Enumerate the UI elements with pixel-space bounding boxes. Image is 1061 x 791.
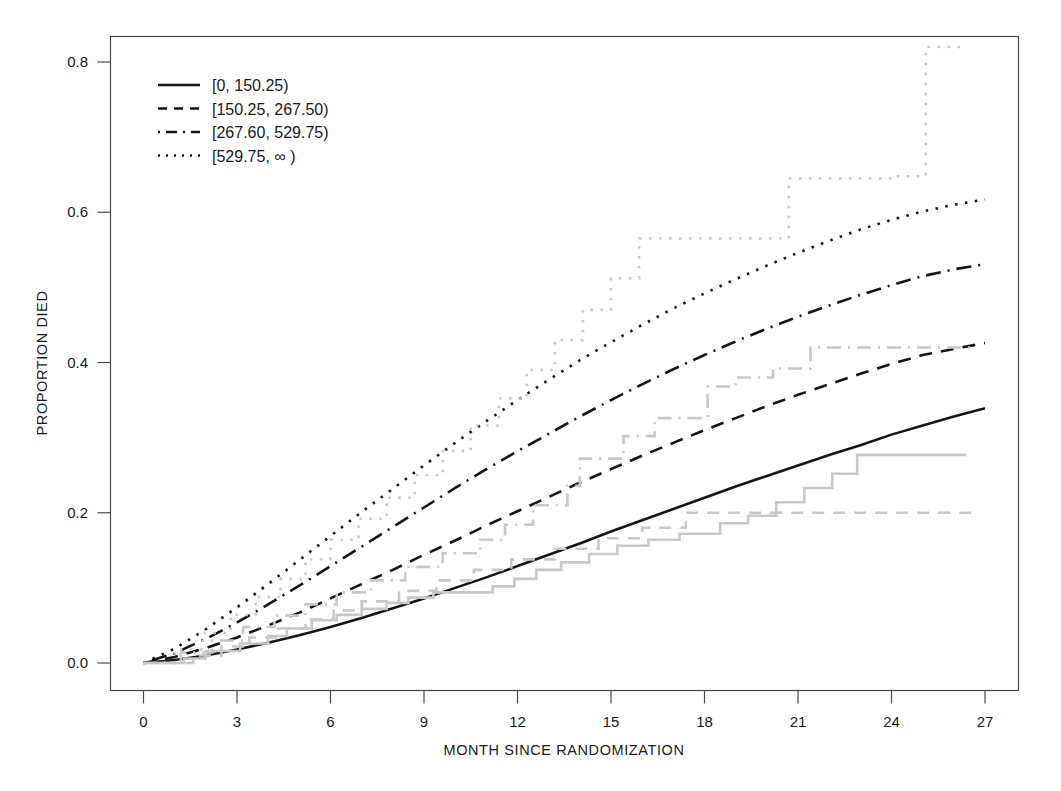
- x-tick-label-8: 24: [883, 713, 900, 730]
- x-tick-label-0: 0: [139, 713, 147, 730]
- y-tick-label-0: 0.0: [67, 654, 88, 671]
- x-tick-label-3: 9: [420, 713, 428, 730]
- legend-label-2: [267.60, 529.75): [212, 124, 329, 141]
- chart-background: [0, 0, 1061, 791]
- y-tick-label-4: 0.8: [67, 53, 88, 70]
- legend-label-1: [150.25, 267.50): [212, 101, 329, 118]
- x-tick-label-7: 21: [790, 713, 807, 730]
- x-axis-title: MONTH SINCE RANDOMIZATION: [443, 742, 684, 758]
- x-tick-label-6: 18: [696, 713, 713, 730]
- figure-container: 03691215182124270.00.20.40.60.8 MONTH SI…: [0, 0, 1061, 791]
- legend-label-0: [0, 150.25): [212, 77, 289, 94]
- x-tick-label-2: 6: [326, 713, 334, 730]
- x-tick-label-5: 15: [603, 713, 620, 730]
- x-tick-label-9: 27: [977, 713, 994, 730]
- legend-label-3: [529.75, ∞ ): [212, 148, 295, 165]
- y-tick-label-3: 0.6: [67, 203, 88, 220]
- x-tick-label-4: 12: [509, 713, 526, 730]
- x-tick-label-1: 3: [233, 713, 241, 730]
- y-tick-label-1: 0.2: [67, 504, 88, 521]
- y-axis-title: PROPORTION DIED: [34, 291, 50, 436]
- y-tick-label-2: 0.4: [67, 354, 88, 371]
- survival-curve-chart: 03691215182124270.00.20.40.60.8 MONTH SI…: [0, 0, 1061, 791]
